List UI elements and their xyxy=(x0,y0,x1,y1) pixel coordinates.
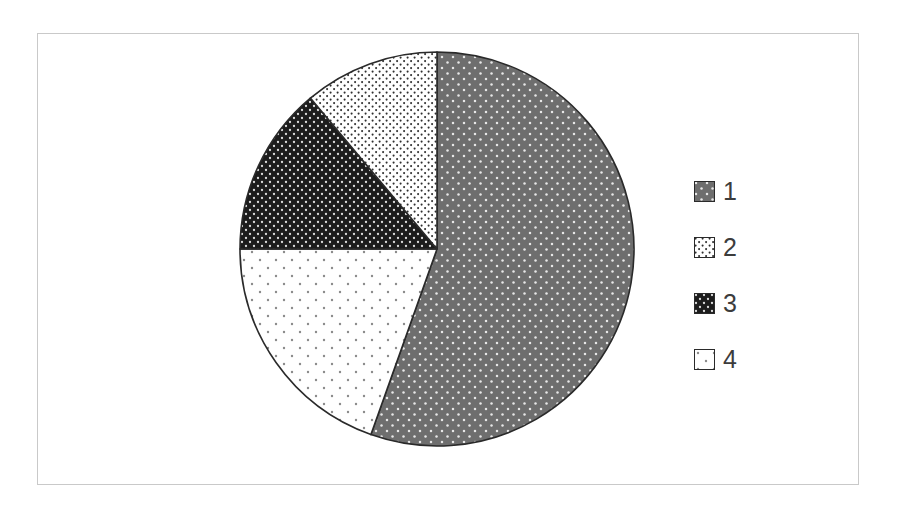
legend-label-series-1: 1 xyxy=(723,179,737,204)
legend-label-series-2: 2 xyxy=(723,235,737,260)
legend-label-series-3: 3 xyxy=(723,291,737,316)
legend-label-series-4: 4 xyxy=(723,347,737,372)
legend-swatch-series-2 xyxy=(694,237,715,258)
legend-item-series-1[interactable]: 1 xyxy=(694,163,814,219)
chart-legend: 1 2 3 4 xyxy=(694,163,814,387)
legend-item-series-3[interactable]: 3 xyxy=(694,275,814,331)
pie-chart-figure: 1 2 3 4 xyxy=(0,0,900,523)
legend-swatch-series-4 xyxy=(694,349,715,370)
legend-item-series-4[interactable]: 4 xyxy=(694,331,814,387)
legend-item-series-2[interactable]: 2 xyxy=(694,219,814,275)
legend-swatch-series-3 xyxy=(694,293,715,314)
legend-swatch-series-1 xyxy=(694,181,715,202)
